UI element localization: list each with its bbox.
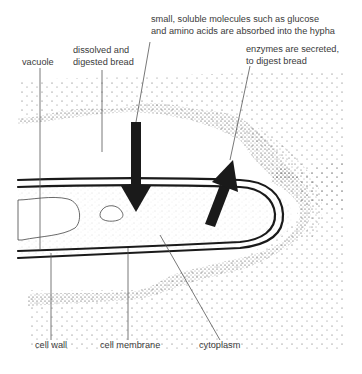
enzymes-label-line1: enzymes are secreted, xyxy=(246,44,339,56)
enzymes-label: enzymes are secreted, to digest bread xyxy=(246,44,339,67)
cell-membrane-label: cell membrane xyxy=(100,340,160,352)
absorbed-label: small, soluble molecules such as glucose… xyxy=(151,14,335,37)
dissolved-label-line2: digested bread xyxy=(73,57,134,69)
absorbed-label-line2: and amino acids are absorbed into the hy… xyxy=(151,26,335,38)
cytoplasm-label: cytoplasm xyxy=(199,340,240,352)
dissolved-label-line1: dissolved and xyxy=(73,45,134,57)
absorbed-label-line1: small, soluble molecules such as glucose xyxy=(151,14,335,26)
cell-wall-label: cell wall xyxy=(35,340,67,352)
enzymes-label-line2: to digest bread xyxy=(246,56,339,68)
vacuole-label: vacuole xyxy=(22,57,54,69)
dissolved-bread-label: dissolved and digested bread xyxy=(73,45,134,68)
